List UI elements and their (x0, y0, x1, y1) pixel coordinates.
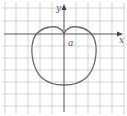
parameter-label: a (68, 38, 73, 48)
cardioid-diagram: x y a (0, 0, 127, 116)
y-axis-arrow-icon (62, 4, 67, 10)
y-axis-label: y (55, 3, 62, 13)
x-axis-label: x (119, 35, 124, 45)
